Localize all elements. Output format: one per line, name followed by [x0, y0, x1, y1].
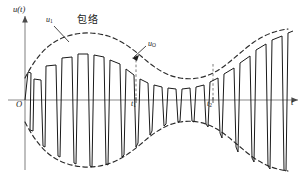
- lower-envelope-curve: [25, 121, 288, 171]
- waveform-canvas: [0, 0, 307, 175]
- carrier-waveform-group: [25, 31, 293, 171]
- leader-u1: [54, 26, 69, 42]
- upper-envelope-curve: [25, 29, 288, 79]
- carrier-waveform: [25, 31, 293, 171]
- am-waveform-figure: u(t) u1 包络 uO O t1 t2 t: [0, 0, 307, 175]
